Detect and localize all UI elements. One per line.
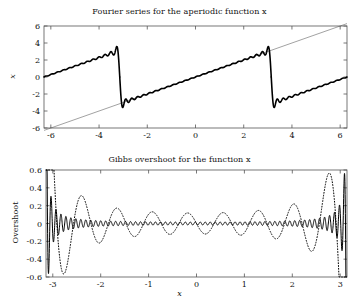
y-tick-label-top: -2 bbox=[18, 90, 40, 99]
x-tick-label-top: 0 bbox=[193, 131, 198, 140]
plot-area-top bbox=[0, 0, 359, 150]
y-tick-label-bottom: 0.2 bbox=[12, 201, 42, 210]
y-tick-label-bottom: -0.4 bbox=[12, 255, 42, 264]
y-tick-label-bottom: -0.2 bbox=[12, 237, 42, 246]
x-tick-label-top: 2 bbox=[241, 131, 246, 140]
y-tick-label-top: 0 bbox=[18, 73, 40, 82]
x-tick-label-bottom: 3 bbox=[338, 280, 343, 289]
x-tick-label-top: 6 bbox=[338, 131, 343, 140]
chart-panel-fourier-series: Fourier series for the aperiodic functio… bbox=[0, 0, 359, 150]
y-tick-label-top: 4 bbox=[18, 39, 40, 48]
y-tick-label-top: 2 bbox=[18, 56, 40, 65]
y-tick-label-bottom: 0 bbox=[12, 219, 42, 228]
x-tick-label-bottom: -1 bbox=[145, 280, 153, 289]
y-tick-label-top: -6 bbox=[18, 124, 40, 133]
figure-canvas: Fourier series for the aperiodic functio… bbox=[0, 0, 359, 306]
y-tick-label-top: 6 bbox=[18, 22, 40, 31]
y-tick-label-bottom: -0.6 bbox=[12, 273, 42, 282]
x-tick-label-bottom: 1 bbox=[242, 280, 247, 289]
x-tick-label-top: -2 bbox=[143, 131, 151, 140]
y-tick-label-bottom: 0.6 bbox=[12, 166, 42, 175]
x-tick-label-top: -4 bbox=[95, 131, 103, 140]
y-tick-label-top: -4 bbox=[18, 107, 40, 116]
y-tick-label-bottom: 0.4 bbox=[12, 183, 42, 192]
x-tick-label-bottom: -3 bbox=[49, 280, 57, 289]
x-tick-label-top: -6 bbox=[47, 131, 55, 140]
x-tick-label-bottom: -2 bbox=[97, 280, 105, 289]
chart-panel-gibbs-overshoot: Gibbs overshoot for the function x Overs… bbox=[0, 150, 359, 306]
x-tick-label-top: 4 bbox=[289, 131, 294, 140]
x-tick-label-bottom: 0 bbox=[194, 280, 199, 289]
x-tick-label-bottom: 2 bbox=[290, 280, 295, 289]
